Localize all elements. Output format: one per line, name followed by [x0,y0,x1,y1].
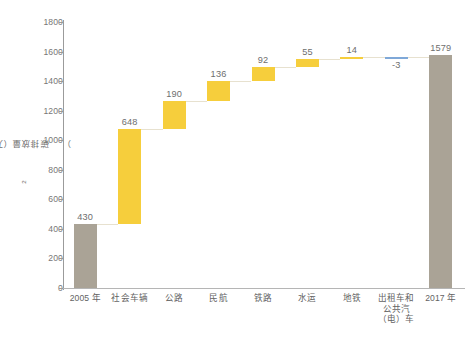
bar-6[interactable] [296,59,319,67]
connector-line [408,57,429,58]
bar-9[interactable] [429,55,452,288]
y-tick-label: 200 [29,253,63,263]
y-tick-label: 1000 [29,135,63,145]
y-tick-label: 400 [29,224,63,234]
connector-line [275,67,296,68]
y-tick-label: 1600 [29,47,63,57]
connector-line [230,81,251,82]
bar-7[interactable] [340,57,363,60]
connector-line [363,57,384,58]
x-tick-label: 2017 年 [415,293,467,304]
waterfall-chart: 碳排放量（万吨CO2） 1800160014001200100080060040… [0,0,474,343]
bar-value-label: 14 [322,45,382,55]
connector-line [319,59,340,60]
bar-4[interactable] [207,81,230,101]
connector-line [141,129,162,130]
bar-value-label: -3 [366,60,426,70]
bar-8[interactable] [385,57,408,60]
bar-value-label: 136 [189,69,249,79]
bar-value-label: 430 [55,212,115,222]
bar-value-label: 648 [100,117,160,127]
bar-3[interactable] [163,101,186,129]
bar-1[interactable] [74,224,97,288]
bar-2[interactable] [118,129,141,225]
bar-value-label: 190 [144,89,204,99]
y-tick-label: 1400 [29,76,63,86]
x-axis-line [63,288,465,289]
y-tick-label: 0 [29,283,63,293]
bar-5[interactable] [252,67,275,81]
y-tick-label: 600 [29,194,63,204]
connector-line [97,224,118,225]
y-tick-label: 800 [29,165,63,175]
y-tick-label: 1800 [29,17,63,27]
y-axis-ticks: 180016001400120010008006004002000 [0,0,63,343]
bar-value-label: 1579 [411,43,471,53]
connector-line [186,101,207,102]
y-tick-label: 1200 [29,106,63,116]
